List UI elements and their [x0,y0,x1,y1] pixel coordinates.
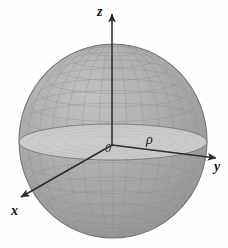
sphere-coordinate-figure: z y x 0 ρ [0,0,228,248]
y-axis-label: y [214,160,220,174]
z-axis-label: z [97,5,102,19]
origin-point [111,144,113,146]
rho-radius-label: ρ [146,133,153,147]
sphere-diagram-svg [0,0,228,248]
origin-label: 0 [105,142,111,154]
x-axis-label: x [11,204,18,218]
equatorial-plane [19,124,207,160]
